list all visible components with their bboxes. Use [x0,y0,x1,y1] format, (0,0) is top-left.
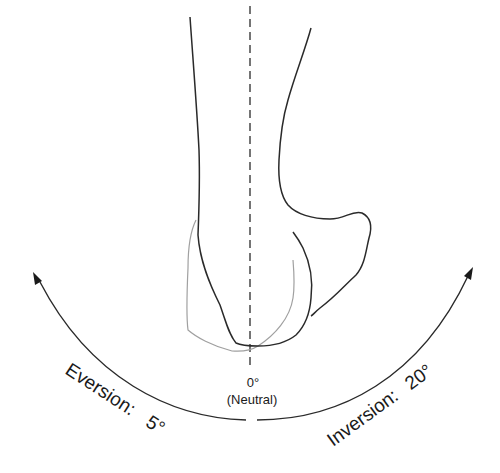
neutral-description-label: (Neutral) [227,392,278,407]
foot-rom-diagram: 0° (Neutral) Eversion: 5° Inversion: 20° [0,0,500,473]
inversion-arc [257,276,468,420]
neutral-angle-label: 0° [247,375,259,390]
inversion-arrowhead-icon [464,267,473,280]
inversion-value: 20° [401,360,437,394]
eversion-value: 5° [142,411,169,439]
leg-right-outline [279,28,371,316]
eversion-arc [40,282,246,420]
eversion-label: Eversion: [62,359,140,420]
everted-heel-outline [187,220,294,351]
